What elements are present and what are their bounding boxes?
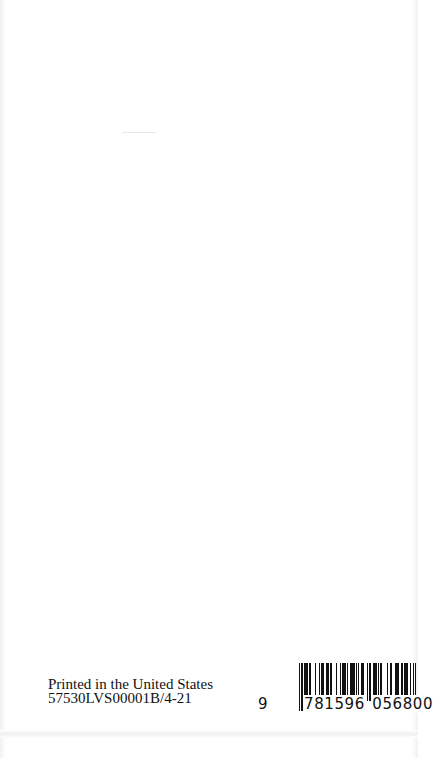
barcode-lead-digit: 9 bbox=[258, 696, 268, 712]
bottom-scan-band bbox=[0, 730, 418, 738]
printed-in-line: Printed in the United States bbox=[48, 677, 213, 691]
faint-print-mark bbox=[122, 132, 156, 133]
print-batch-code: 57530LVS00001B/4-21 bbox=[48, 691, 213, 705]
barcode-left-group: 781596 bbox=[303, 695, 366, 713]
page-edge-shadow-right bbox=[412, 0, 418, 758]
barcode-digits: 781596 056800 bbox=[303, 696, 434, 712]
printer-colophon: Printed in the United States 57530LVS000… bbox=[48, 677, 213, 705]
barcode-right-group: 056800 bbox=[371, 695, 434, 713]
isbn-barcode: 9 781596 056800 bbox=[290, 660, 418, 714]
page-edge-shadow-left bbox=[0, 0, 6, 758]
